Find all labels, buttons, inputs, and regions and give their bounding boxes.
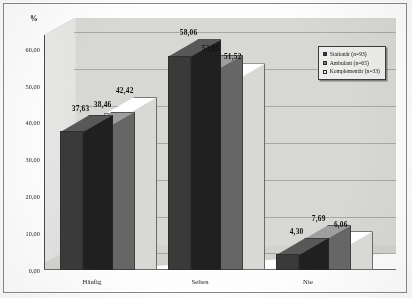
legend-item[interactable]: Stationär (n=93) [323, 50, 380, 59]
bar-side-face [83, 115, 113, 270]
bar[interactable] [60, 131, 83, 270]
legend-swatch-icon [323, 52, 327, 56]
bar-value-label: 38,46 [94, 100, 112, 109]
bar-value-label: 51,52 [224, 52, 242, 61]
y-axis-tick-label: 20,00 [26, 193, 40, 200]
legend-swatch-icon [323, 70, 327, 74]
legend-item-label: Komplementär (n=33) [330, 67, 380, 76]
y-axis-tick-label: 50,00 [26, 82, 40, 89]
legend-item-label: Stationär (n=93) [330, 50, 367, 59]
bar-value-label: 42,42 [116, 86, 134, 95]
y-axis-tick-label: 60,00 [26, 45, 40, 52]
bar-value-label: 4,30 [290, 227, 304, 236]
gridline [74, 32, 396, 33]
figure-frame: % 0,0010,0020,0030,0040,0050,0060,00 6,0… [3, 3, 407, 293]
category-label: Nie [303, 278, 313, 285]
y-axis-line [44, 35, 45, 270]
chart-legend[interactable]: Stationär (n=93)Ambulant (n=65)Komplemen… [318, 46, 386, 80]
bar-value-label: 37,63 [72, 104, 90, 113]
y-axis-tick-label: 10,00 [26, 230, 40, 237]
legend-item-label: Ambulant (n=65) [330, 59, 369, 68]
legend-item[interactable]: Ambulant (n=65) [323, 59, 380, 68]
bar[interactable] [168, 56, 191, 270]
bar-side-face [191, 39, 221, 270]
bar-front-face [276, 254, 299, 270]
bar-value-label: 7,69 [312, 214, 326, 223]
bar-front-face [168, 56, 191, 270]
category-label: Selten [191, 278, 208, 285]
bar-value-label: 58,06 [180, 28, 198, 37]
bar[interactable] [276, 254, 299, 270]
y-axis-tick-label: 30,00 [26, 156, 40, 163]
y-axis-unit-label: % [30, 14, 38, 23]
y-axis-tick-label: 0,00 [29, 267, 40, 274]
bar-front-face [60, 131, 83, 270]
legend-swatch-icon [323, 61, 327, 65]
chart-figure: % 0,0010,0020,0030,0040,0050,0060,00 6,0… [0, 0, 412, 298]
y-axis-tick-label: 40,00 [26, 119, 40, 126]
plot-area: 0,0010,0020,0030,0040,0050,0060,00 6,067… [44, 18, 396, 270]
bar-value-label: 53,85 [202, 44, 220, 53]
category-label: Häufig [83, 278, 102, 285]
bar-value-label: 6,06 [334, 220, 348, 229]
legend-item[interactable]: Komplementär (n=33) [323, 67, 380, 76]
